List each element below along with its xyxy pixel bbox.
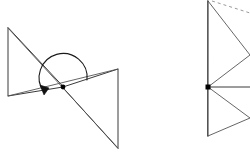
right-center-dot (206, 85, 211, 90)
canvas-background (0, 0, 250, 159)
rotation-center-dot (61, 85, 66, 90)
geometry-figure-canvas (0, 0, 250, 159)
